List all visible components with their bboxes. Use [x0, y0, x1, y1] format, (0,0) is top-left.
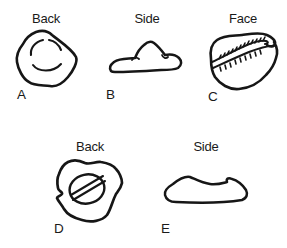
drawing-d-back-view: [55, 158, 125, 224]
drawing-e-ink: [165, 177, 247, 203]
panel-a-view-label: Back: [32, 12, 60, 25]
panel-a-letter: A: [17, 88, 26, 102]
drawing-b-ink: [110, 42, 181, 72]
e-outer-outline: [165, 177, 247, 203]
drawing-c-face-view: [209, 33, 281, 91]
panel-c-letter: C: [208, 90, 218, 104]
a-inner-arc-smile: [33, 64, 61, 71]
b-outer-outline: [110, 42, 181, 72]
drawing-a-back-view: [16, 29, 78, 89]
panel-d-letter: D: [54, 222, 64, 236]
panel-d-view-label: Back: [76, 140, 104, 153]
drawing-b-side-view: [107, 39, 183, 74]
panel-e-letter: E: [161, 222, 170, 236]
panel-b-letter: B: [106, 88, 115, 102]
drawing-a-ink: [17, 31, 77, 86]
drawing-d-ink: [57, 160, 122, 221]
a-inner-arc-upper-left: [31, 40, 43, 55]
c-lower-teeth: [220, 50, 261, 71]
panel-c-view-label: Face: [229, 12, 257, 25]
figure-diagram: Back A Side B Face C Back: [0, 0, 287, 248]
a-outer-outline: [17, 31, 77, 86]
drawing-e-side-view: [162, 171, 250, 205]
panel-e-view-label: Side: [193, 140, 218, 153]
drawing-c-ink: [211, 33, 277, 89]
panel-b-view-label: Side: [134, 12, 159, 25]
